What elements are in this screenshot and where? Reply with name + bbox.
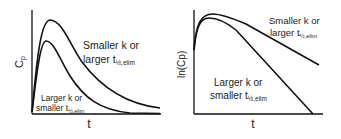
pk-charts: Cp t Smaller k or larger t½,elim Larger … [0, 0, 341, 139]
right-chart: ln(Cp) t Smaller k or larger t½,elim Lar… [176, 10, 323, 131]
left-annotation-smaller-k: Smaller k or [83, 39, 140, 51]
right-y-label: ln(Cp) [176, 51, 187, 78]
right-annotation-larger-k-2: smaller t½,elim [210, 90, 267, 102]
left-x-label: t [87, 117, 91, 131]
left-annotation-larger-k-2: smaller t½,elim [36, 103, 85, 114]
right-annotation-larger-k: Larger k or [214, 77, 263, 88]
left-chart: Cp t Smaller k or larger t½,elim Larger … [13, 10, 161, 131]
right-annotation-smaller-k: Smaller k or [269, 15, 320, 26]
right-x-label: t [251, 117, 255, 131]
left-annotation-larger-k: Larger k or [41, 93, 82, 103]
left-y-label: Cp [13, 56, 27, 68]
left-annotation-smaller-k-2: larger t½,elim [83, 53, 135, 66]
right-annotation-smaller-k-2: larger t½,elim [270, 27, 317, 39]
